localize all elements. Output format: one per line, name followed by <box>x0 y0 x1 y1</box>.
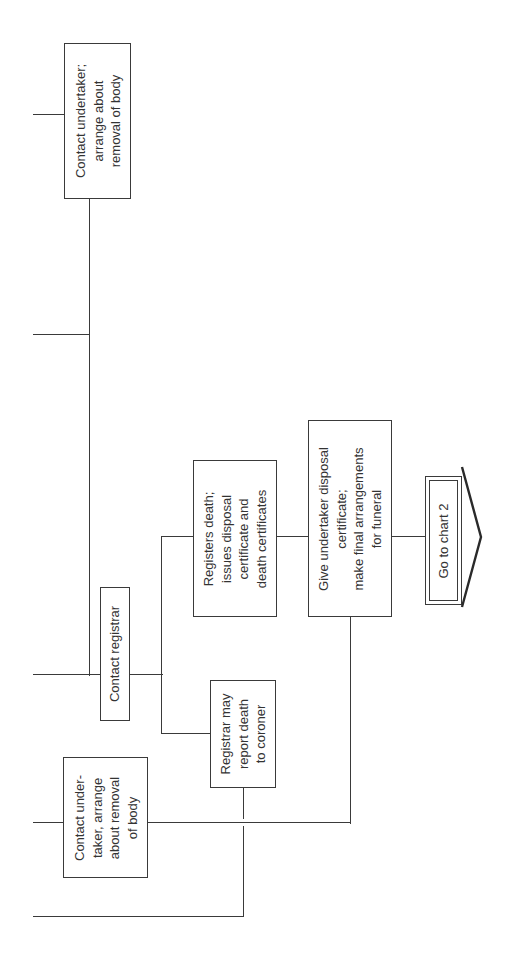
node-label: Go to chart 2 <box>435 503 453 578</box>
node-label: Registers death; issues disposal certifi… <box>200 489 270 587</box>
node-label: Contact under- taker, arrange about remo… <box>71 775 141 861</box>
connector-line <box>162 536 193 537</box>
node-go-to-chart-2[interactable]: Go to chart 2 <box>425 476 462 605</box>
node-contact-undertaker-bottom: Contact under- taker, arrange about remo… <box>63 757 148 878</box>
connector-line <box>89 199 90 676</box>
connector-line <box>33 674 100 675</box>
node-contact-undertaker-top: Contact undertaker; arrange about remova… <box>64 43 131 199</box>
connector-line <box>161 536 162 734</box>
node-give-undertaker-certificate: Give undertaker disposal certificate; ma… <box>308 420 392 617</box>
node-label: Contact registrar <box>106 606 124 702</box>
connector-line <box>130 674 163 675</box>
node-registrar-may-report: Registrar may report death to coroner <box>210 680 276 788</box>
node-label: Registrar may report death to coroner <box>217 694 270 775</box>
connector-line <box>243 788 244 819</box>
connector-line <box>33 916 244 917</box>
arrow-right-icon <box>460 467 490 612</box>
connector-line <box>277 536 308 537</box>
node-label: Give undertaker disposal certificate; ma… <box>315 447 385 591</box>
node-registers-death: Registers death; issues disposal certifi… <box>193 460 277 617</box>
connector-line <box>350 617 351 824</box>
connector-line <box>392 536 425 537</box>
connector-line <box>162 733 210 734</box>
connector-line <box>33 334 90 335</box>
connector-line <box>243 826 244 917</box>
connector-line <box>33 114 64 115</box>
node-contact-registrar: Contact registrar <box>100 587 130 721</box>
node-label: Contact undertaker; arrange about remova… <box>71 64 124 178</box>
connector-line <box>33 822 63 823</box>
connector-line <box>148 822 351 823</box>
